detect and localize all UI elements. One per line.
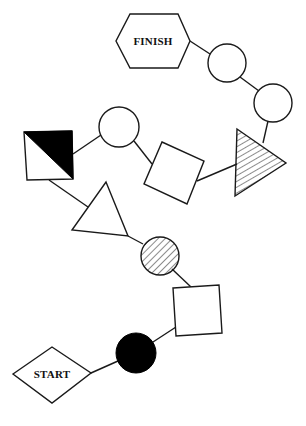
finish-label: FINISH: [133, 35, 172, 47]
black-circle: [116, 333, 156, 373]
square-rotated: [144, 142, 204, 204]
circle-right-upper: [208, 44, 246, 82]
edge-circle-right-upper-to-finish: [190, 41, 210, 54]
edge-circle-right-lower-to-upper: [240, 77, 259, 91]
circle-left: [99, 107, 139, 147]
connectors: [49, 41, 268, 373]
edge-square-rotated-to-hatched-triangle: [197, 164, 237, 181]
hatched-triangle: [235, 129, 286, 196]
circle-right-lower: [254, 84, 292, 122]
edge-hatched-circle-to-triangle: [128, 236, 143, 244]
triangle-white: [72, 182, 128, 236]
edge-black-circle-to-square-lower: [153, 327, 176, 342]
hatched-circle: [141, 237, 179, 275]
start-node: START: [13, 347, 91, 403]
edge-square-lower-to-hatched-circle: [172, 269, 191, 287]
half-black-square: [24, 131, 73, 180]
path-diagram: FINISH START: [0, 0, 306, 426]
square-lower: [173, 285, 222, 336]
edge-half-black-square-to-circle-left: [73, 135, 101, 154]
finish-node: FINISH: [116, 14, 190, 68]
edge-hatched-triangle-to-circle-right-lower: [263, 121, 268, 143]
edge-circle-left-to-square-rotated: [134, 141, 152, 164]
edge-start-to-black-circle: [91, 361, 118, 373]
start-label: START: [34, 368, 71, 380]
edge-triangle-to-half-black-square: [49, 180, 88, 207]
